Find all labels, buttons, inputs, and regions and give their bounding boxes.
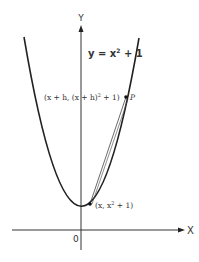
point-p-marker bbox=[124, 95, 128, 99]
point-p-coordinates: (x + h, (x + h)2 + 1) bbox=[44, 92, 120, 102]
secant-line-2 bbox=[92, 99, 128, 204]
y-axis-arrow-icon bbox=[79, 25, 84, 32]
x-axis-label: X bbox=[187, 225, 194, 236]
x-axis bbox=[12, 228, 185, 233]
equation-label: y = x2 + 1 bbox=[88, 47, 143, 59]
x-axis-arrow-icon bbox=[178, 228, 185, 233]
point-q-marker bbox=[88, 202, 92, 206]
y-axis-label: Y bbox=[77, 13, 84, 23]
parabola-diagram: Y X 0 y = x2 + 1 (x + h, (x + h)2 + 1) P… bbox=[0, 0, 199, 262]
point-p-label: P bbox=[129, 93, 136, 102]
secant-line bbox=[90, 97, 126, 204]
y-axis bbox=[79, 25, 84, 250]
origin-label: 0 bbox=[73, 234, 79, 244]
point-q-coordinates: (x, x2 + 1) bbox=[95, 200, 133, 210]
